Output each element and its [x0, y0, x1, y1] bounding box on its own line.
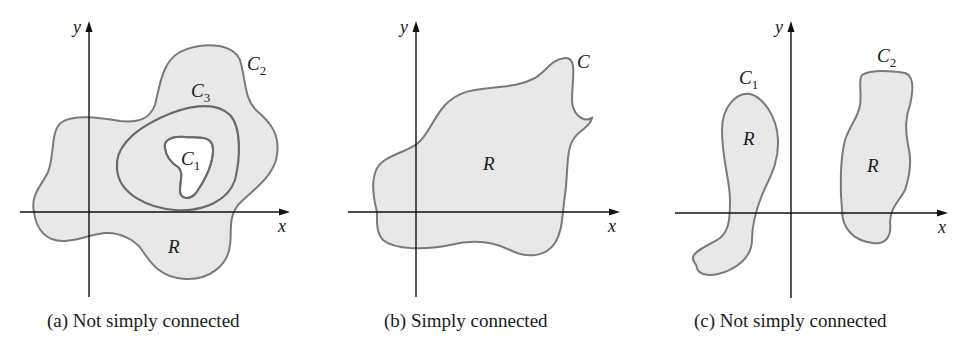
region-label-b: R [482, 153, 495, 174]
caption-c: (c) Not simply connected [694, 310, 887, 332]
panel-a: y x R C2 C3 C1 (a) Not simply connected [20, 17, 290, 332]
x-label-b: x [607, 216, 616, 236]
curve-label-c2-a: C2 [247, 53, 266, 78]
curve-label-c1-a: C1 [181, 148, 200, 173]
y-label-a: y [71, 17, 81, 37]
y-arrow-icon-b [413, 21, 420, 32]
region-label-c-left: R [742, 128, 755, 149]
region-a [33, 45, 277, 279]
curve-label-c2-c: C2 [877, 45, 896, 70]
y-arrow-icon-c [788, 21, 795, 32]
figure-canvas: y x R C2 C3 C1 (a) Not simply connected … [0, 0, 967, 350]
region-label-c-right: R [866, 155, 879, 176]
x-label-c: x [937, 217, 946, 237]
y-label-b: y [398, 17, 408, 37]
region-label-a: R [167, 236, 180, 257]
curve-label-c1-c: C1 [739, 67, 758, 92]
y-label-c: y [773, 17, 783, 37]
caption-a: (a) Not simply connected [47, 310, 240, 332]
x-arrow-icon-b [609, 209, 620, 216]
x-label-a: x [277, 216, 286, 236]
panel-b: y x R C (b) Simply connected [348, 17, 620, 332]
region-c-left [693, 94, 778, 275]
caption-b: (b) Simply connected [384, 310, 548, 332]
panel-c: y x R R C1 C2 (c) Not simply connected [675, 17, 948, 332]
y-arrow-icon-a [86, 21, 93, 32]
x-arrow-icon-a [279, 209, 290, 216]
curve-label-c-b: C [577, 51, 590, 72]
x-arrow-icon-c [937, 210, 948, 217]
